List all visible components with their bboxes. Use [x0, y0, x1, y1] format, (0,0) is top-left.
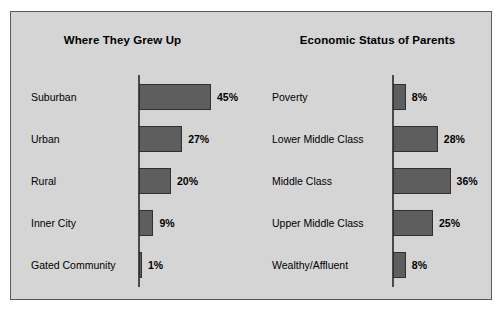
bar	[393, 252, 406, 278]
bar-value-label: 36%	[457, 175, 478, 187]
bar-category-label: Rural	[31, 175, 56, 187]
bar	[139, 84, 211, 110]
bar-category-label: Lower Middle Class	[272, 133, 364, 145]
bar-row: Rural20%	[11, 168, 254, 194]
bar	[393, 126, 438, 152]
chart-economic-status-of-parents: Economic Status of Parents Poverty8%Lowe…	[254, 12, 493, 299]
bar	[139, 126, 182, 152]
bar-category-label: Gated Community	[31, 259, 116, 271]
bar-category-label: Wealthy/Affluent	[272, 259, 348, 271]
chart-where-they-grew-up: Where They Grew Up Suburban45%Urban27%Ru…	[11, 12, 254, 299]
chart-title-right: Economic Status of Parents	[258, 34, 497, 46]
bar-category-label: Upper Middle Class	[272, 217, 364, 229]
bar-value-label: 27%	[188, 133, 209, 145]
bar	[139, 168, 171, 194]
bar-row: Urban27%	[11, 126, 254, 152]
bar	[393, 84, 406, 110]
bar-category-label: Urban	[31, 133, 60, 145]
bar	[139, 210, 153, 236]
bar-row: Wealthy/Affluent8%	[254, 252, 493, 278]
bar-category-label: Poverty	[272, 91, 308, 103]
bar	[139, 252, 142, 278]
bar-category-label: Suburban	[31, 91, 77, 103]
bar-value-label: 1%	[148, 259, 163, 271]
bar	[393, 210, 433, 236]
bar-row: Poverty8%	[254, 84, 493, 110]
figure-panel: Where They Grew Up Suburban45%Urban27%Ru…	[10, 11, 492, 300]
bar-category-label: Middle Class	[272, 175, 332, 187]
bar-value-label: 25%	[439, 217, 460, 229]
bar-row: Middle Class36%	[254, 168, 493, 194]
bar-row: Inner City9%	[11, 210, 254, 236]
bar-value-label: 20%	[177, 175, 198, 187]
bar-row: Suburban45%	[11, 84, 254, 110]
bar-category-label: Inner City	[31, 217, 76, 229]
chart-title-left: Where They Grew Up	[1, 34, 244, 46]
bar	[393, 168, 451, 194]
bar-value-label: 28%	[444, 133, 465, 145]
bar-row: Upper Middle Class25%	[254, 210, 493, 236]
bar-value-label: 9%	[159, 217, 174, 229]
bar-row: Lower Middle Class28%	[254, 126, 493, 152]
bar-value-label: 8%	[412, 259, 427, 271]
bar-row: Gated Community1%	[11, 252, 254, 278]
bar-value-label: 8%	[412, 91, 427, 103]
bar-value-label: 45%	[217, 91, 238, 103]
